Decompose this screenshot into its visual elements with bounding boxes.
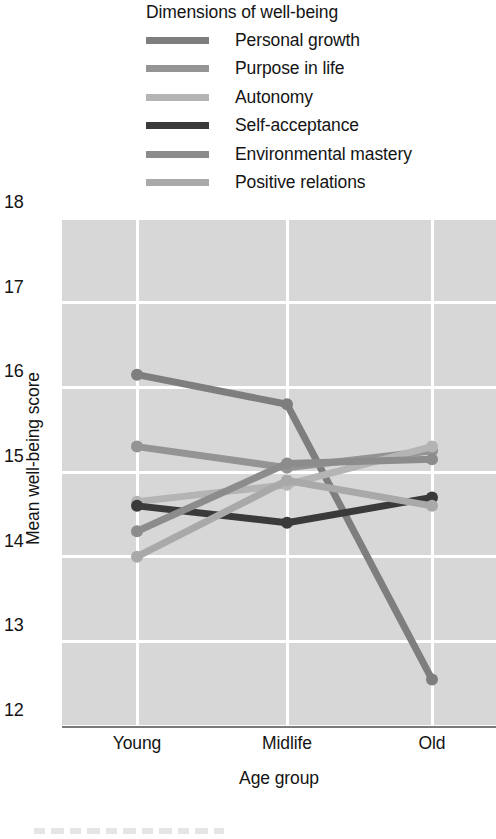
legend-swatch-icon xyxy=(146,94,209,101)
legend-swatch-icon xyxy=(146,37,209,44)
legend-item-label: Autonomy xyxy=(235,87,313,108)
data-point-marker xyxy=(131,551,143,563)
series-layer xyxy=(62,218,496,726)
data-point-marker xyxy=(426,441,438,453)
legend-title: Dimensions of well-being xyxy=(146,2,338,23)
y-axis-tick-label: 14 xyxy=(4,531,24,552)
legend-swatch-icon xyxy=(146,179,209,186)
data-point-marker xyxy=(281,474,293,486)
data-point-marker xyxy=(426,453,438,465)
legend-swatch-icon xyxy=(146,65,209,72)
y-axis-tick-label: 16 xyxy=(4,361,24,382)
y-axis-tick-label: 17 xyxy=(4,277,24,298)
y-axis-tick-label: 15 xyxy=(4,446,24,467)
legend-item-label: Positive relations xyxy=(235,172,365,193)
legend-swatch-icon xyxy=(146,122,209,129)
y-axis-tick-label: 13 xyxy=(4,615,24,636)
legend-item: Environmental mastery xyxy=(146,140,412,168)
data-point-marker xyxy=(131,500,143,512)
x-axis-tick-label: Old xyxy=(419,733,446,754)
legend-swatch-icon xyxy=(146,151,209,158)
y-axis-tick-label: 12 xyxy=(4,700,24,721)
legend-item: Autonomy xyxy=(146,83,313,111)
data-point-marker xyxy=(131,441,143,453)
x-axis-tick-label: Young xyxy=(113,733,162,754)
data-point-marker xyxy=(281,398,293,410)
legend-item-label: Purpose in life xyxy=(235,58,344,79)
legend-item: Self-acceptance xyxy=(146,112,359,140)
legend-item: Personal growth xyxy=(146,26,360,54)
legend-item: Positive relations xyxy=(146,169,365,197)
x-axis-line xyxy=(62,726,496,728)
y-axis-tick-label: 18 xyxy=(4,192,24,213)
data-point-marker xyxy=(131,369,143,381)
data-point-marker xyxy=(426,500,438,512)
chart-legend: Dimensions of well-being Personal growth… xyxy=(0,0,496,200)
data-point-marker xyxy=(281,458,293,470)
data-point-marker xyxy=(426,673,438,685)
x-axis-title: Age group xyxy=(62,768,496,789)
legend-item-label: Environmental mastery xyxy=(235,144,412,165)
clipped-caption-edge xyxy=(34,828,224,834)
y-axis-title: Mean well-being score xyxy=(23,314,44,604)
legend-item-label: Self-acceptance xyxy=(235,115,359,136)
x-axis-tick-label: Midlife xyxy=(262,733,312,754)
legend-item-label: Personal growth xyxy=(235,30,360,51)
legend-item: Purpose in life xyxy=(146,55,344,83)
line-chart: Mean well-being score 18171615141312 You… xyxy=(0,200,496,839)
plot-area xyxy=(62,218,496,726)
data-point-marker xyxy=(281,517,293,529)
data-point-marker xyxy=(131,525,143,537)
